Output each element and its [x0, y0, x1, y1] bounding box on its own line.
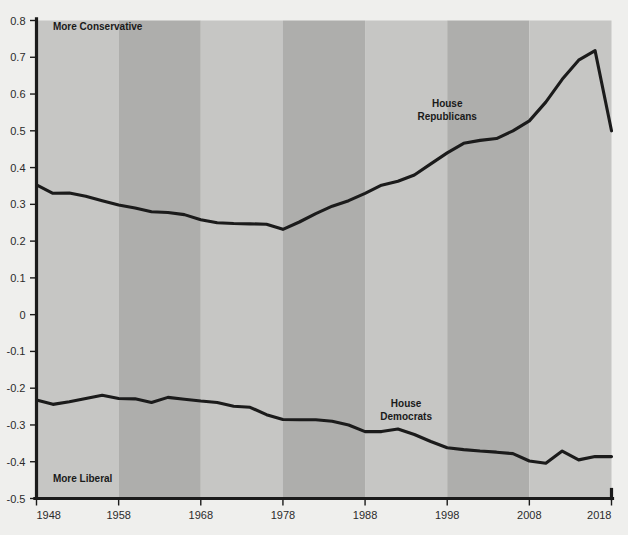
decade-band [37, 21, 119, 499]
axis-direction-annotation: More Conservative [53, 21, 143, 32]
x-tick-label: 1958 [106, 509, 130, 521]
y-tick-label: 0.2 [10, 235, 25, 247]
decade-band [529, 21, 611, 499]
decade-band [447, 21, 529, 499]
chart-canvas: 0.80.70.60.50.40.30.20.10-0.1-0.2-0.3-0.… [0, 0, 628, 535]
y-tick-label: -0.3 [7, 419, 26, 431]
x-tick-label: 1968 [189, 509, 213, 521]
decade-band [201, 21, 283, 499]
political-polarization-chart: 0.80.70.60.50.40.30.20.10-0.1-0.2-0.3-0.… [0, 0, 628, 535]
decade-band [119, 21, 201, 499]
x-tick-label: 1998 [435, 509, 459, 521]
x-tick-label: 1988 [353, 509, 377, 521]
y-axis-tick-labels: 0.80.70.60.50.40.30.20.10-0.1-0.2-0.3-0.… [7, 15, 36, 505]
decade-band [365, 21, 447, 499]
axis-direction-annotation: More Liberal [53, 473, 113, 484]
y-tick-label: 0.6 [10, 88, 25, 100]
decade-shading-bands [37, 21, 612, 499]
y-tick-label: 0.1 [10, 272, 25, 284]
y-tick-label: 0 [19, 309, 25, 321]
y-tick-label: -0.2 [7, 382, 26, 394]
x-tick-label: 1948 [37, 509, 61, 521]
y-tick-label: 0.8 [10, 15, 25, 27]
y-tick-label: 0.5 [10, 125, 25, 137]
x-tick-label: 2008 [517, 509, 541, 521]
y-tick-label: -0.4 [7, 456, 26, 468]
x-axis-tick-labels: 19481958196819781988199820082018 [37, 500, 612, 521]
y-tick-label: 0.3 [10, 198, 25, 210]
y-tick-label: -0.1 [7, 345, 26, 357]
x-tick-label: 2018 [587, 509, 611, 521]
y-tick-label: 0.7 [10, 51, 25, 63]
x-tick-label: 1978 [271, 509, 295, 521]
y-tick-label: 0.4 [10, 162, 25, 174]
y-tick-label: -0.5 [7, 493, 26, 505]
